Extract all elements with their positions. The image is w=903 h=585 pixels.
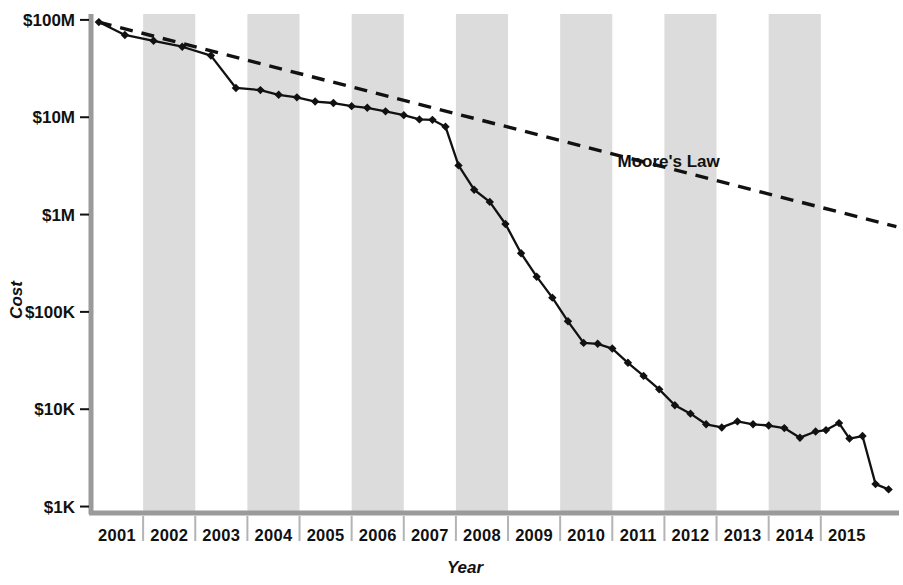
x-tick-label: 2006 (359, 526, 397, 544)
x-tick-label: 2012 (672, 526, 710, 544)
data-point-marker (415, 115, 423, 123)
moores-law-label: Moore's Law (618, 152, 721, 171)
x-axis-title: Year (447, 558, 485, 577)
x-tick-label: 2015 (828, 526, 866, 544)
data-point-marker (311, 97, 319, 105)
x-tick-label: 2009 (515, 526, 553, 544)
data-point-marker (871, 480, 879, 488)
y-axis-ticks: $100M$10M$1M$100K$10K$1K (23, 11, 89, 517)
x-tick-label: 2004 (254, 526, 292, 544)
data-point-marker (858, 432, 866, 440)
x-tick-label: 2007 (411, 526, 449, 544)
x-tick-label: 2002 (150, 526, 188, 544)
data-point-marker (121, 31, 129, 39)
x-tick-label: 2010 (567, 526, 605, 544)
x-tick-label: 2005 (307, 526, 345, 544)
data-point-marker (329, 99, 337, 107)
data-point-marker (884, 485, 892, 493)
y-tick-label: $100K (25, 303, 76, 322)
data-point-marker (749, 420, 757, 428)
chart-annotations: Moore's Law (618, 152, 721, 171)
y-tick-label: $10M (32, 108, 75, 127)
data-point-marker (441, 122, 449, 130)
data-point-marker (428, 116, 436, 124)
x-tick-label: 2001 (98, 526, 136, 544)
data-point-marker (733, 417, 741, 425)
x-tick-label: 2008 (463, 526, 501, 544)
year-band-2010 (560, 14, 612, 511)
x-tick-label: 2003 (202, 526, 240, 544)
data-point-marker (822, 426, 830, 434)
year-band-2012 (664, 14, 716, 511)
x-tick-label: 2013 (724, 526, 762, 544)
x-tick-label: 2011 (620, 526, 657, 544)
year-band-2014 (769, 14, 821, 511)
data-point-marker (718, 423, 726, 431)
x-axis-ticks: 2001200220032004200520062007200820092010… (98, 516, 866, 544)
y-tick-label: $1K (44, 498, 76, 517)
y-tick-label: $10K (34, 400, 75, 419)
x-tick-label: 2014 (776, 526, 814, 544)
y-axis-title: Cost (7, 280, 26, 319)
year-band-2002 (143, 14, 195, 511)
y-tick-label: $100M (23, 11, 75, 30)
genome-sequencing-cost-chart: $100M$10M$1M$100K$10K$1K 200120022003200… (0, 0, 903, 585)
y-tick-label: $1M (42, 206, 75, 225)
year-band-2008 (456, 14, 508, 511)
chart-canvas: $100M$10M$1M$100K$10K$1K 200120022003200… (0, 0, 903, 585)
